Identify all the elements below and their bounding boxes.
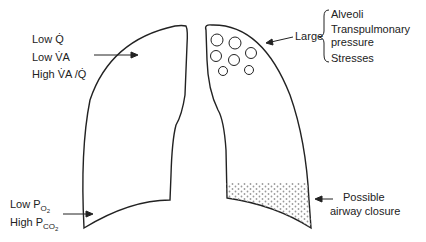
label-large: Large (295, 30, 323, 43)
stippled-base-region (200, 183, 320, 233)
label-high-pco2: High PCO2 (10, 216, 58, 231)
label-alveoli: Alveoli (331, 8, 363, 21)
label-high-va-q: High V̇A /Q̇ (32, 68, 86, 81)
label-low-po2: Low PO2 (10, 198, 50, 213)
label-transpulmonary: Transpulmonary (331, 23, 410, 36)
large-alveoli (211, 34, 257, 76)
label-possible: Possible (343, 191, 385, 204)
label-low-q: Low Q̇ (32, 33, 64, 46)
label-low-va: Low V̇A (32, 51, 70, 64)
label-stresses: Stresses (331, 52, 374, 65)
label-pressure: pressure (331, 36, 374, 49)
label-airway-closure: airway closure (330, 205, 400, 218)
